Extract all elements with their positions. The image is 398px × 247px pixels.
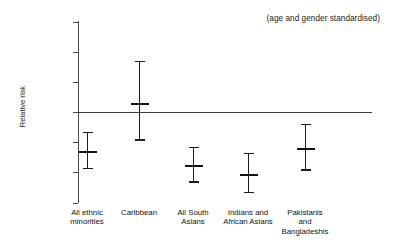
chart-annotation: (age and gender standardised) (267, 14, 380, 23)
error-bar-whisker (248, 153, 249, 192)
error-bar-lower-cap (189, 181, 199, 182)
error-bar-whisker (139, 61, 140, 139)
x-axis-label: Pakistanis and Bangladeshis (269, 208, 341, 236)
error-bar-point-estimate (131, 103, 149, 105)
error-bar-upper-cap (301, 124, 311, 125)
error-bar-lower-cap (301, 169, 311, 170)
relative-risk-forest-chart: (age and gender standardised) Relative r… (0, 0, 398, 247)
error-bar-lower-cap (244, 192, 254, 193)
y-tick-mark (73, 82, 78, 83)
error-bar-whisker (305, 124, 306, 169)
whites-reference-line (78, 112, 372, 113)
y-axis-title: Relative risk (18, 67, 27, 147)
y-tick-mark (73, 172, 78, 173)
error-bar-point-estimate (297, 148, 315, 150)
x-axis-label: Caribbean (108, 208, 170, 217)
error-bar-upper-cap (135, 61, 145, 62)
error-bar-point-estimate (240, 174, 258, 176)
error-bar-upper-cap (244, 153, 254, 154)
y-tick-mark (73, 22, 78, 23)
error-bar-point-estimate (185, 165, 203, 167)
error-bar-whisker (87, 132, 88, 168)
error-bar-lower-cap (83, 168, 93, 169)
y-tick-mark (73, 142, 78, 143)
error-bar-point-estimate (79, 151, 97, 153)
error-bar-lower-cap (135, 139, 145, 140)
error-bar-upper-cap (189, 147, 199, 148)
y-tick-mark (73, 52, 78, 53)
error-bar-upper-cap (83, 132, 93, 133)
y-tick-mark (73, 203, 78, 204)
